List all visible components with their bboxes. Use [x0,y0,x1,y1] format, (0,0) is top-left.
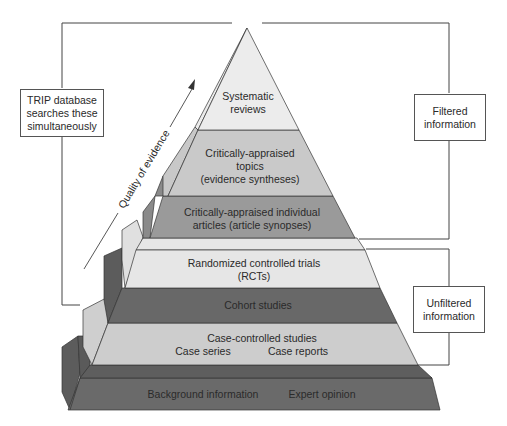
filtered-line-2: information [424,118,476,131]
trip-database-box: TRIP database searches these simultaneou… [20,89,104,137]
expert-opinion-label: Expert opinion [288,388,355,400]
case-reports-label: Case reports [268,345,328,357]
filtered-line-1: Filtered [424,105,476,118]
ca-topics-label-1: Critically-appraised [205,147,294,159]
case-controlled-label: Case-controlled studies [207,332,317,344]
ca-topics-label-2: topics [236,160,263,172]
arrow-head-icon [188,79,195,90]
unfiltered-information-box: Unfiltered information [413,286,485,333]
cohort-label: Cohort studies [224,299,292,311]
ca-articles-label-2: articles (article synopses) [193,219,311,231]
rcts-label-2: (RCTs) [238,270,271,282]
trip-line-1: TRIP database [26,94,97,107]
rcts-label-1: Randomized controlled trials [188,257,320,269]
unfiltered-line-1: Unfiltered [423,297,475,310]
trip-line-2: searches these [26,107,97,120]
ca-topics-label-3: (evidence syntheses) [200,173,299,185]
background-information-label: Background information [148,388,259,400]
filtered-information-box: Filtered information [414,94,486,141]
systematic-reviews-label-1: Systematic [222,90,273,102]
case-series-label: Case series [175,345,230,357]
trip-line-3: simultaneously [26,120,97,133]
unfiltered-line-2: information [423,310,475,323]
evidence-pyramid-diagram: Quality of evidence [0,0,507,426]
systematic-reviews-label-2: reviews [230,103,266,115]
ca-articles-label-1: Critically-appraised individual [184,206,320,218]
